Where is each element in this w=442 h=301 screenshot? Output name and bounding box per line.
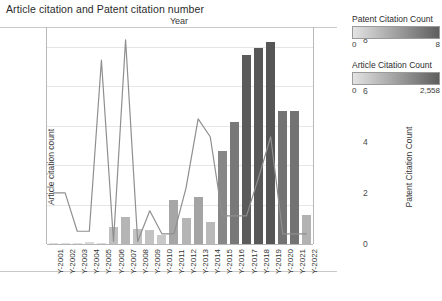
bar bbox=[157, 235, 166, 244]
x-axis-tick: Y-2002 bbox=[68, 249, 77, 274]
x-axis-tick: Y-2021 bbox=[298, 249, 307, 274]
bar bbox=[266, 42, 275, 244]
x-axis-tick: Y-2003 bbox=[80, 249, 89, 274]
bar bbox=[85, 242, 94, 244]
legend-article-gradient bbox=[352, 72, 440, 85]
x-axis-tick: Y-2010 bbox=[165, 249, 174, 274]
legend-patent: Patent Citation Count 0 8 bbox=[352, 14, 440, 49]
bar bbox=[254, 48, 263, 244]
legend-patent-title: Patent Citation Count bbox=[352, 14, 440, 24]
x-axis-tick: Y-2019 bbox=[274, 249, 283, 274]
x-axis-tick: Y-2005 bbox=[104, 249, 113, 274]
y-axis-left-title: Article citation count bbox=[46, 129, 56, 205]
legend-article-max: 2,558 bbox=[420, 86, 440, 95]
x-axis-tick: Y-2012 bbox=[189, 249, 198, 274]
y-axis-right-tick: 0 bbox=[363, 239, 385, 249]
bar bbox=[230, 122, 239, 244]
x-axis-tick: Y-2016 bbox=[237, 249, 246, 274]
legend-article: Article Citation Count 0 2,558 bbox=[352, 60, 440, 95]
bar bbox=[302, 215, 311, 244]
bar bbox=[169, 200, 178, 244]
bar bbox=[290, 111, 299, 244]
legend: Patent Citation Count 0 8 Article Citati… bbox=[352, 14, 440, 106]
bar bbox=[49, 243, 58, 244]
bar bbox=[121, 217, 130, 244]
x-axis-tick: Y-2011 bbox=[177, 250, 186, 274]
x-axis-tick: Y-2008 bbox=[141, 249, 150, 274]
bar bbox=[182, 218, 191, 244]
bar bbox=[145, 230, 154, 244]
y-axis-right-tick: 4 bbox=[363, 137, 385, 147]
bar bbox=[194, 197, 203, 244]
x-axis-tick: Y-2022 bbox=[310, 249, 319, 274]
legend-patent-max: 8 bbox=[436, 40, 440, 49]
x-axis-tick: Y-2001 bbox=[56, 249, 65, 274]
page-title: Article citation and Patent citation num… bbox=[6, 3, 204, 15]
bar bbox=[133, 229, 142, 244]
x-axis-tick: Y-2015 bbox=[225, 249, 234, 274]
bar bbox=[206, 222, 215, 244]
x-axis-tick: Y-2009 bbox=[153, 249, 162, 274]
y-axis-right-tick: 2 bbox=[363, 188, 385, 198]
x-axis-tick: Y-2013 bbox=[201, 249, 210, 274]
bar bbox=[242, 55, 251, 244]
bar bbox=[218, 151, 227, 244]
x-axis-tick: Y-2017 bbox=[250, 249, 259, 274]
bar bbox=[97, 243, 106, 244]
y-axis-right-title: Patent Citation Count bbox=[404, 127, 414, 208]
legend-patent-gradient bbox=[352, 26, 440, 39]
x-axis-tick: Y-2020 bbox=[286, 249, 295, 274]
legend-article-min: 0 bbox=[352, 86, 356, 95]
bar bbox=[73, 243, 82, 244]
x-axis-tick: Y-2006 bbox=[117, 249, 126, 274]
bar bbox=[61, 243, 70, 244]
bar bbox=[278, 111, 287, 244]
legend-article-title: Article Citation Count bbox=[352, 60, 440, 70]
x-axis-tick: Y-2007 bbox=[129, 249, 138, 274]
x-axis-title: Year bbox=[46, 16, 312, 26]
x-axis-tick: Y-2004 bbox=[92, 249, 101, 274]
x-axis-tick: Y-2018 bbox=[262, 249, 271, 274]
chart-plot-area: Article citation count Patent Citation C… bbox=[46, 27, 314, 244]
gridline bbox=[47, 244, 313, 245]
x-axis-tick: Y-2014 bbox=[213, 249, 222, 274]
bar bbox=[109, 227, 118, 244]
legend-patent-min: 0 bbox=[352, 40, 356, 49]
